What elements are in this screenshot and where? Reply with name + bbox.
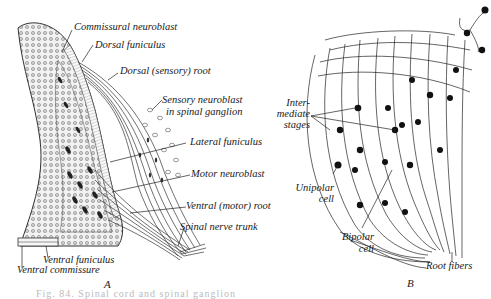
label-intermediate-stages-2: mediate <box>266 108 310 119</box>
label-spinal-nerve-trunk: Spinal nerve trunk <box>180 221 258 232</box>
label-ventral-motor-root: Ventral (motor) root <box>186 200 271 211</box>
figure-caption: Fig. 84. Spinal cord and spinal ganglion <box>36 288 236 299</box>
label-intermediate-stages-1: Inter- <box>266 97 310 108</box>
label-motor-neuroblast: Motor neuroblast <box>191 168 264 179</box>
label-spinal-ganglion: in spinal ganglion <box>166 106 242 117</box>
label-ventral-commissure: Ventral commissure <box>17 264 100 275</box>
label-root-fibers: Root fibers <box>426 260 472 271</box>
label-bipolar-cell-1: Bipolar <box>332 231 374 242</box>
label-dorsal-sensory-root: Dorsal (sensory) root <box>120 65 211 76</box>
label-bipolar-cell-2: cell <box>332 243 374 254</box>
label-unipolar-cell-2: cell <box>288 193 334 204</box>
label-unipolar-cell-1: Unipolar <box>288 182 334 193</box>
label-lateral-funiculus: Lateral funiculus <box>190 136 262 147</box>
label-intermediate-stages-3: stages <box>266 119 310 130</box>
label-commissural-neuroblast: Commissural neuroblast <box>74 21 177 32</box>
panel-a-drawing <box>18 23 206 268</box>
panel-b-drawing <box>307 12 485 268</box>
label-dorsal-funiculus: Dorsal funiculus <box>95 39 165 50</box>
panel-letter-b: B <box>407 277 414 289</box>
label-sensory-neuroblast: Sensory neuroblast <box>162 94 242 105</box>
